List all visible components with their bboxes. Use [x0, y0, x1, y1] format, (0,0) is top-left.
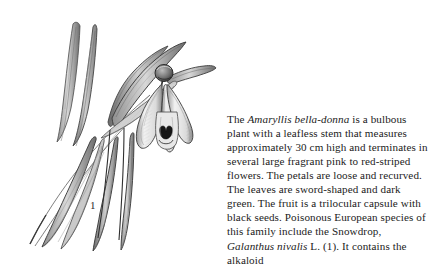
- species-name-italic: Galanthus nivalis: [227, 240, 307, 252]
- flower-ovary: [155, 65, 173, 82]
- body-paragraph: The Amaryllis bella-donna is a bulbous p…: [227, 112, 430, 267]
- flower-inner-corona: [156, 112, 179, 149]
- leaf-lower-right: [121, 133, 134, 250]
- leaf-upper-left-a: [57, 22, 80, 142]
- species-name-italic: Amaryllis bella-donna: [247, 113, 349, 125]
- paragraph-text-run: The: [227, 113, 247, 125]
- figure-number-label: 1: [90, 200, 96, 211]
- snowdrop-botanical-illustration: 1: [0, 0, 222, 261]
- paragraph-text-run: is a bulbous plant with a leafless stem …: [227, 113, 428, 237]
